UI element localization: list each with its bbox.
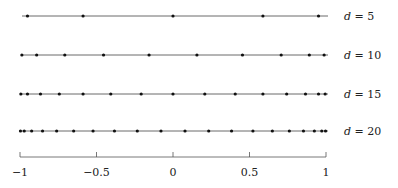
tick-label: −1 (12, 166, 28, 179)
data-point (109, 92, 112, 95)
data-point (136, 129, 139, 132)
data-point (19, 92, 22, 95)
data-point (271, 129, 274, 132)
data-point (230, 129, 233, 132)
data-point (26, 14, 29, 17)
data-point (23, 129, 26, 132)
data-point (63, 53, 66, 56)
data-point (171, 14, 174, 17)
data-point (302, 129, 305, 132)
data-point (320, 129, 323, 132)
data-point (317, 92, 320, 95)
data-point (195, 53, 198, 56)
data-point (19, 129, 22, 132)
data-point (251, 129, 254, 132)
data-point (288, 129, 291, 132)
series-label: d = 10 (344, 49, 381, 62)
data-point (55, 129, 58, 132)
data-point (159, 129, 162, 132)
data-point (171, 92, 174, 95)
data-point (81, 14, 84, 17)
x-axis-ticks: −1−0.500.51 (12, 152, 330, 179)
point-rows: d = 5d = 10d = 15d = 20 (19, 10, 381, 138)
data-point (147, 53, 150, 56)
data-point (113, 129, 116, 132)
data-point (207, 129, 210, 132)
point-row: d = 20 (19, 125, 381, 138)
data-point (241, 53, 244, 56)
tick-label: −0.5 (83, 166, 110, 179)
series-label: d = 5 (344, 10, 374, 23)
data-point (313, 129, 316, 132)
data-point (58, 92, 61, 95)
point-row: d = 15 (19, 88, 381, 101)
data-point (39, 92, 42, 95)
data-point (30, 129, 33, 132)
data-point (102, 53, 105, 56)
data-point (81, 92, 84, 95)
data-point (304, 92, 307, 95)
data-point (261, 92, 264, 95)
data-point (261, 14, 264, 17)
tick-label: 0.5 (241, 166, 259, 179)
data-point (308, 53, 311, 56)
data-point (72, 129, 75, 132)
data-point (140, 92, 143, 95)
data-point (203, 92, 206, 95)
series-label: d = 20 (344, 125, 381, 138)
data-point (317, 14, 320, 17)
data-point (41, 129, 44, 132)
data-point (234, 92, 237, 95)
data-point (91, 129, 94, 132)
data-point (285, 92, 288, 95)
data-point (183, 129, 186, 132)
data-point (20, 53, 23, 56)
data-point (324, 129, 327, 132)
data-point (323, 53, 326, 56)
point-row: d = 10 (20, 49, 381, 62)
chebyshev-points-chart: d = 5d = 10d = 15d = 20 −1−0.500.51 (0, 0, 398, 188)
tick-label: 1 (323, 166, 330, 179)
data-point (280, 53, 283, 56)
data-point (26, 92, 29, 95)
point-row: d = 5 (22, 10, 374, 23)
data-point (324, 92, 327, 95)
tick-label: 0 (170, 166, 177, 179)
series-label: d = 15 (344, 88, 381, 101)
data-point (35, 53, 38, 56)
